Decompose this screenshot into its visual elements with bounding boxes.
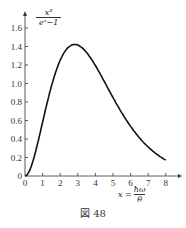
- plot-area: 01234567800.20.40.60.81.01.21.41.6: [0, 0, 186, 228]
- x-label-denominator: θ: [134, 195, 146, 204]
- x-tick-label: 8: [164, 178, 169, 188]
- x-tick-label: 0: [23, 178, 28, 188]
- x-tick-label: 1: [40, 178, 45, 188]
- y-label-denominator: eˣ−1: [36, 18, 61, 27]
- y-label-numerator: x³: [36, 8, 61, 18]
- y-tick-label: 1.4: [11, 42, 23, 52]
- x-tick-label: 2: [58, 178, 63, 188]
- x-tick-label: 7: [146, 178, 151, 188]
- y-axis-label: x³ eˣ−1: [36, 8, 61, 27]
- x-tick-label: 5: [111, 178, 116, 188]
- y-tick-label: 0.8: [11, 97, 23, 107]
- x-tick-label: 4: [93, 178, 98, 188]
- figure-caption: 図 48: [0, 205, 186, 220]
- x-axis-label: x = ħω θ: [118, 185, 145, 204]
- y-tick-label: 0.6: [11, 116, 23, 126]
- y-tick-label: 1.0: [11, 79, 23, 89]
- data-curve: [25, 45, 166, 177]
- y-tick-label: 0.2: [11, 153, 22, 163]
- y-tick-label: 0.4: [11, 134, 23, 144]
- axes: 01234567800.20.40.60.81.01.21.41.6: [11, 11, 182, 188]
- x-tick-label: 3: [76, 178, 81, 188]
- y-tick-label: 1.6: [11, 23, 23, 33]
- y-tick-label: 0: [18, 171, 23, 181]
- x-label-numerator: ħω: [134, 185, 146, 195]
- y-tick-label: 1.2: [11, 60, 22, 70]
- x-label-lhs: x =: [118, 190, 132, 199]
